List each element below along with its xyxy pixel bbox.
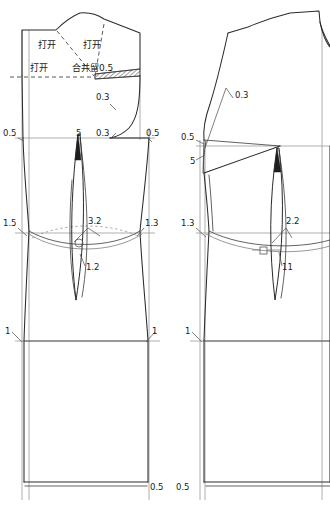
- back-upper-outline: [228, 11, 330, 46]
- back-armhole-curve: [204, 33, 228, 140]
- front-waist-label-right: 1.3: [145, 218, 159, 228]
- back-waist-label-dart: 2.2: [286, 216, 300, 226]
- front-dart-length-label: 1.2: [86, 262, 100, 272]
- front-hem-label: 0.5: [150, 482, 164, 492]
- pattern-drawing: 打开 打开 打开 合并留0.5 0.3 0.3 0.5 0.5 5 1.5 3.…: [0, 0, 330, 512]
- back-leader-1-3: [196, 228, 206, 237]
- back-side-seam-inner: [209, 175, 213, 231]
- front-merge-label: 合并留0.5: [72, 62, 113, 73]
- front-side-seam: [140, 138, 149, 482]
- front-armhole-curve: [110, 76, 140, 138]
- front-leader-0-3-upper: [110, 104, 116, 110]
- back-hem-label: 0.5: [176, 482, 190, 492]
- front-bust-label-left: 0.5: [3, 128, 17, 138]
- front-leader-hip-left: [12, 332, 22, 342]
- back-leader-0-3: [226, 88, 233, 98]
- back-side-dart-lower-leg: [204, 146, 280, 173]
- front-center-seam: [23, 138, 29, 482]
- front-slash-label-1: 打开: [38, 39, 56, 50]
- front-armhole-label-lower: 0.3: [96, 128, 110, 138]
- back-armhole-label: 0.3: [235, 90, 249, 100]
- front-waist-label-left: 1.5: [3, 218, 17, 228]
- front-waist-arc: [29, 234, 142, 249]
- back-leader-2-2: [272, 228, 286, 243]
- front-hip-label-right: 1: [152, 326, 157, 336]
- pattern-sheet: 打开 打开 打开 合并留0.5 0.3 0.3 0.5 0.5 5 1.5 3.…: [0, 0, 330, 512]
- back-hip-label: 1: [185, 326, 190, 336]
- back-leader-hip: [192, 332, 202, 342]
- back-shoulder-label-5: 5: [190, 156, 195, 166]
- front-leader-1-5: [18, 228, 27, 236]
- front-slash-label-3: 打开: [30, 62, 48, 73]
- back-waist-arc: [206, 234, 330, 252]
- front-dart-top-label: 5: [76, 128, 81, 138]
- back-side-dart-upper-leg: [204, 140, 280, 146]
- back-leader-5: [196, 156, 203, 160]
- back-leader-0-3-long: [205, 88, 226, 148]
- front-slash-label-2: 打开: [83, 39, 101, 50]
- front-bust-label-right: 0.5: [146, 128, 160, 138]
- front-leader-3-2b: [88, 228, 100, 236]
- front-hip-label-left: 1: [5, 326, 10, 336]
- front-waist-label-dart: 3.2: [88, 216, 102, 226]
- back-bodice-piece: 0.3 0.5 5 1.3 2.2 11 1 0.5: [176, 11, 330, 500]
- front-bodice-piece: 打开 打开 打开 合并留0.5 0.3 0.3 0.5 0.5 5 1.5 3.…: [3, 13, 164, 500]
- front-armhole-label-upper: 0.3: [96, 92, 110, 102]
- back-shoulder-label-0-5: 0.5: [181, 132, 195, 142]
- back-dart-length-label: 11: [282, 262, 293, 272]
- back-waist-label-left: 1.3: [181, 218, 195, 228]
